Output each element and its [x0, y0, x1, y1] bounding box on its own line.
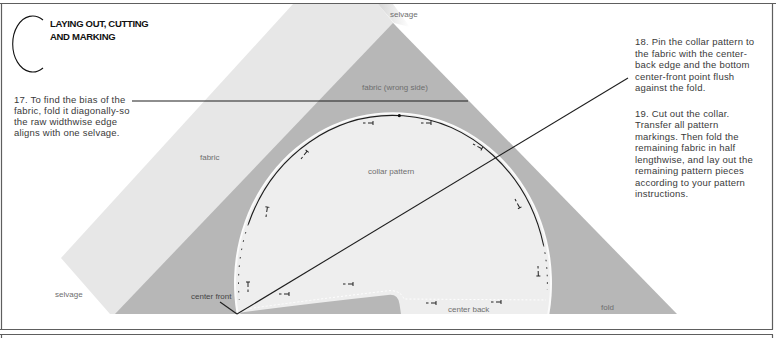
- center-back-dot: [398, 114, 401, 117]
- step-17-line: aligns with one selvage.: [14, 128, 130, 139]
- label-center-front: center front: [191, 292, 232, 301]
- step-18-line: the fabric with the center-: [635, 48, 754, 60]
- label-fold: fold: [601, 303, 614, 312]
- label-fabric: fabric: [200, 153, 220, 162]
- step-19-line: markings. Then fold the: [635, 131, 753, 143]
- label-fabric-wrong-side: fabric (wrong side): [362, 83, 428, 92]
- label-selvage-top: selvage: [390, 10, 418, 19]
- section-title-line-2: AND MARKING: [50, 31, 148, 44]
- section-letter-c-icon: [13, 16, 43, 72]
- step-19-line: lengthwise, and lay out the: [635, 154, 753, 166]
- step-18-line: center-front point flush: [635, 71, 754, 83]
- step-18-line: 18. Pin the collar pattern to: [635, 36, 754, 48]
- step-19-line: according to your pattern: [635, 177, 753, 189]
- section-title-line-1: LAYING OUT, CUTTING: [50, 18, 148, 31]
- step-19-line: remaining pattern pieces: [635, 165, 753, 177]
- step-18-line: back edge and the bottom: [635, 59, 754, 71]
- step-17-instructions: 17. To find the bias of the fabric, fold…: [14, 95, 130, 139]
- step-19-instructions: 19. Cut out the collar. Transfer all pat…: [635, 108, 753, 200]
- label-center-back: center back: [448, 305, 490, 314]
- step-18-line: against the fold.: [635, 82, 754, 94]
- step-19-line: instructions.: [635, 188, 753, 200]
- step-19-line: 19. Cut out the collar.: [635, 108, 753, 120]
- label-collar-pattern: collar pattern: [368, 167, 414, 176]
- step-18-instructions: 18. Pin the collar pattern to the fabric…: [635, 36, 754, 94]
- section-title: LAYING OUT, CUTTING AND MARKING: [50, 18, 148, 43]
- label-selvage-bottom: selvage: [55, 290, 83, 299]
- step-19-line: Transfer all pattern: [635, 119, 753, 131]
- step-19-line: remaining fabric in half: [635, 142, 753, 154]
